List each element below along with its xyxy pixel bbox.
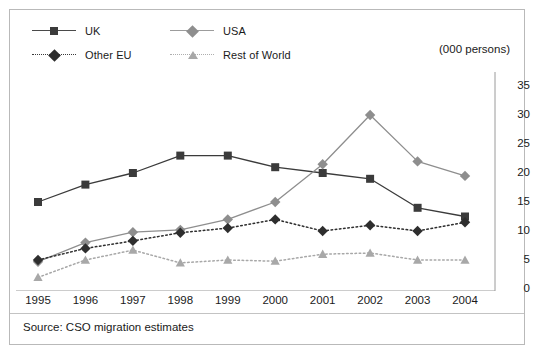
data-point-other-eu	[128, 236, 138, 246]
legend-swatch-usa	[170, 25, 214, 37]
data-point-other-eu	[33, 255, 43, 265]
data-point-other-eu	[223, 223, 233, 233]
legend-label-uk: UK	[85, 25, 100, 37]
data-point-other-eu	[412, 226, 422, 236]
series-line-usa	[38, 115, 465, 262]
data-point-other-eu	[365, 220, 375, 230]
series-line-uk	[38, 156, 465, 217]
y-axis-tick-label: 35	[517, 80, 530, 92]
data-point-uk	[271, 163, 279, 171]
x-axis-tick-label: 2002	[357, 294, 383, 306]
data-point-rest-of-world	[81, 255, 90, 263]
y-axis-tick-label: 30	[517, 109, 530, 121]
units-label: (000 persons)	[439, 43, 510, 55]
chart-legend: UK USA Other EU Rest of World	[10, 10, 524, 66]
diamond-marker-icon	[48, 49, 61, 62]
data-point-uk	[34, 198, 42, 206]
source-divider	[10, 313, 524, 314]
data-point-other-eu	[270, 214, 280, 224]
data-point-rest-of-world	[33, 273, 42, 281]
x-axis-tick-label: 2004	[452, 294, 478, 306]
legend-label-usa: USA	[223, 25, 246, 37]
diamond-marker-icon	[186, 25, 199, 38]
data-point-rest-of-world	[366, 248, 375, 256]
triangle-marker-icon	[188, 51, 198, 59]
data-point-other-eu	[80, 243, 90, 253]
data-point-uk	[414, 204, 422, 212]
x-axis-tick-label: 1997	[120, 294, 146, 306]
series-line-other-eu	[38, 219, 465, 260]
legend-item-usa: USA	[170, 24, 246, 38]
x-axis-tick-label: 1995	[25, 294, 51, 306]
legend-item-uk: UK	[32, 24, 100, 38]
x-axis-tick-label: 2003	[405, 294, 431, 306]
plot-svg	[10, 66, 526, 291]
data-point-usa	[460, 171, 470, 181]
data-point-rest-of-world	[128, 246, 137, 254]
legend-item-other-eu: Other EU	[32, 48, 132, 62]
square-marker-icon	[50, 27, 58, 35]
data-point-uk	[176, 152, 184, 160]
series-line-rest-of-world	[38, 250, 465, 277]
y-axis-tick-label: 10	[517, 225, 530, 237]
source-note: Source: CSO migration estimates	[23, 321, 194, 333]
x-axis-ticks: 1995199619971998199920002001200220032004	[10, 291, 524, 313]
x-axis-tick-label: 2000	[262, 294, 288, 306]
y-axis-tick-label: 20	[517, 167, 530, 179]
legend-label-other-eu: Other EU	[85, 49, 132, 61]
legend-item-rest-of-world: Rest of World	[170, 48, 291, 62]
x-axis-tick-label: 1999	[215, 294, 241, 306]
x-axis-tick-label: 1998	[168, 294, 194, 306]
y-axis-ticks: 05101520253035	[504, 66, 534, 291]
legend-label-rest-of-world: Rest of World	[223, 49, 291, 61]
legend-swatch-rest-of-world	[170, 49, 214, 61]
y-axis-tick-label: 15	[517, 196, 530, 208]
y-axis-tick-label: 0	[524, 283, 530, 295]
y-axis-tick-label: 5	[524, 254, 530, 266]
legend-swatch-other-eu	[32, 49, 76, 61]
x-axis-tick-label: 1996	[73, 294, 99, 306]
plot-area	[10, 66, 524, 291]
data-point-uk	[319, 169, 327, 177]
data-point-other-eu	[317, 226, 327, 236]
y-axis-tick-label: 25	[517, 138, 530, 150]
legend-swatch-uk	[32, 25, 76, 37]
data-point-uk	[81, 181, 89, 189]
chart-figure: UK USA Other EU Rest of World (000 perso…	[9, 9, 525, 345]
x-axis-tick-label: 2001	[310, 294, 336, 306]
data-point-uk	[129, 169, 137, 177]
data-point-uk	[224, 152, 232, 160]
data-point-rest-of-world	[460, 255, 469, 263]
data-point-uk	[366, 175, 374, 183]
